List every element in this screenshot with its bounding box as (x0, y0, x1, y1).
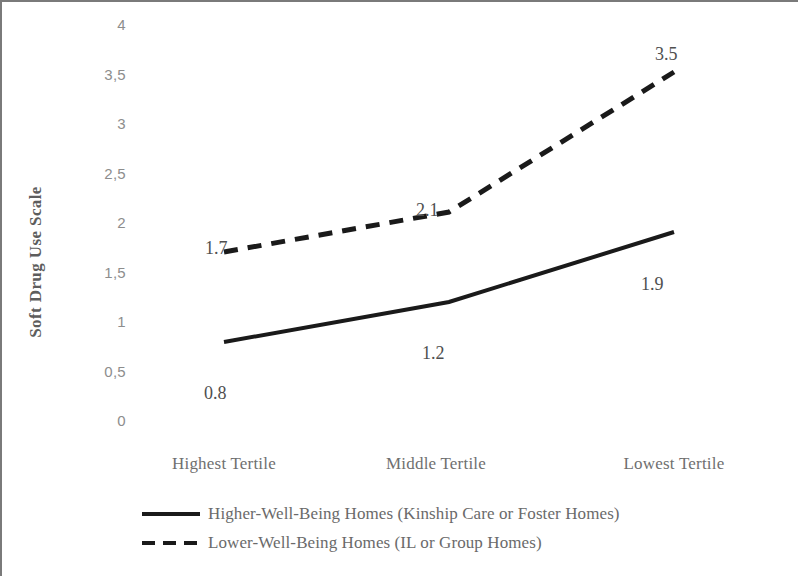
data-label-dashed-0: 1.7 (205, 238, 228, 259)
plot-area (2, 2, 798, 576)
legend-item-higher-well-being: Higher-Well-Being Homes (Kinship Care or… (142, 499, 762, 528)
x-tick-label-middle: Middle Tertile (326, 454, 546, 474)
data-label-solid-0: 0.8 (204, 383, 227, 404)
legend-item-lower-well-being: Lower-Well-Being Homes (IL or Group Home… (142, 528, 762, 557)
legend-label: Higher-Well-Being Homes (Kinship Care or… (208, 504, 620, 524)
series-line-solid (224, 232, 674, 342)
legend-label: Lower-Well-Being Homes (IL or Group Home… (208, 533, 542, 553)
chart-figure: Soft Drug Use Scale 4 3,5 3 2,5 2 1,5 1 … (0, 0, 798, 576)
data-label-solid-1: 1.2 (422, 343, 445, 364)
data-label-dashed-2: 3.5 (655, 44, 678, 65)
series-line-dashed (224, 72, 674, 252)
data-label-dashed-1: 2.1 (416, 200, 439, 221)
x-tick-label-highest: Highest Tertile (114, 454, 334, 474)
data-label-solid-2: 1.9 (641, 274, 664, 295)
legend-swatch-dashed-line-icon (142, 536, 200, 550)
x-tick-label-lowest: Lowest Tertile (564, 454, 784, 474)
legend-swatch-solid-line-icon (142, 507, 200, 521)
legend: Higher-Well-Being Homes (Kinship Care or… (142, 499, 762, 557)
